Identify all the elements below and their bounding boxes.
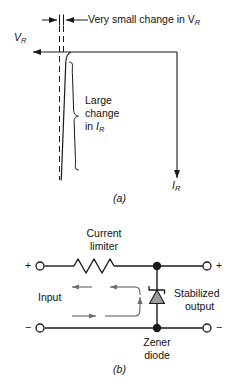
panel-b-label: (b) — [0, 364, 239, 376]
terminal-label-output-plus: + — [216, 260, 222, 272]
zener-diode-label-line2: diode — [127, 350, 187, 362]
input-label: Input — [38, 292, 61, 304]
zener-diode-figure: Very small change in VR VR Large change … — [0, 0, 239, 387]
zener-diode-label-line1: Zener — [127, 337, 187, 349]
terminal-label-output-minus: − — [216, 322, 222, 334]
zener-diode-symbol — [149, 266, 165, 328]
top-rail — [36, 259, 211, 273]
stabilized-output-label-line1: Stabilized — [174, 288, 220, 300]
terminal-label-input-plus: + — [25, 260, 31, 272]
stabilized-output-label-line2: output — [185, 301, 214, 313]
terminal-label-input-minus: − — [25, 322, 31, 334]
terminal-output-minus — [203, 324, 211, 332]
terminal-output-plus — [203, 262, 211, 270]
current-limiter-label-line2: limiter — [64, 241, 144, 253]
input-current-loop — [72, 287, 140, 316]
current-limiter-label-line1: Current — [64, 228, 144, 240]
bottom-rail — [36, 324, 211, 332]
terminal-input-plus — [36, 262, 44, 270]
diode-triangle — [150, 290, 165, 304]
panel-b-graphic — [0, 0, 239, 387]
terminal-input-minus — [36, 324, 44, 332]
resistor-symbol — [74, 259, 114, 273]
